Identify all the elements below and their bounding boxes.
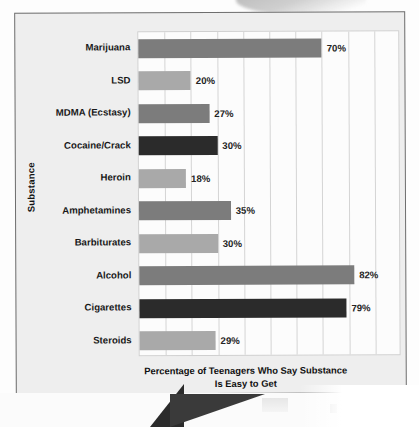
bar-value-label: 29%: [221, 331, 240, 350]
bar: [139, 136, 218, 155]
bar-value-label: 35%: [236, 201, 255, 220]
bar: [139, 234, 218, 253]
bar-value-label: 27%: [214, 104, 233, 123]
bar: [140, 331, 216, 350]
bar-value-label: 79%: [351, 298, 370, 317]
gridline-80: [348, 31, 350, 354]
bar: [139, 104, 210, 123]
category-label: MDMA (Ecstasy): [56, 106, 131, 120]
bar: [139, 298, 346, 318]
bar-value-label: 30%: [222, 136, 241, 155]
plot-region: MarijuanaLSDMDMA (Ecstasy)Cocaine/CrackH…: [39, 30, 400, 357]
plot-area: 70%20%27%30%18%35%30%82%79%29%: [137, 30, 400, 356]
category-label: Cocaine/Crack: [64, 138, 131, 152]
bar: [139, 169, 186, 188]
bar: [138, 71, 190, 90]
category-label: Cigarettes: [85, 301, 132, 315]
gridlines-layer: [138, 31, 398, 32]
bar-value-label: 70%: [327, 38, 346, 57]
category-label: Amphetamines: [62, 203, 131, 217]
category-label: Heroin: [100, 171, 130, 185]
bar: [138, 38, 321, 58]
page-corner-fold-icon: [150, 384, 265, 427]
y-axis-title: Substance: [25, 142, 36, 232]
category-axis-labels: MarijuanaLSDMDMA (Ecstasy)Cocaine/CrackH…: [39, 31, 136, 356]
page-faint-mark: [262, 398, 288, 412]
category-label: Alcohol: [96, 268, 131, 282]
bar-value-label: 82%: [359, 266, 378, 285]
category-label: LSD: [111, 73, 130, 87]
category-label: Marijuana: [85, 41, 130, 55]
bar: [139, 266, 354, 286]
bar-value-label: 18%: [191, 169, 210, 188]
gridline-90: [374, 31, 376, 354]
bar-value-label: 30%: [223, 234, 242, 253]
bar: [139, 201, 231, 220]
chart-card: Substance MarijuanaLSDMDMA (Ecstasy)Coca…: [14, 11, 407, 395]
bars-layer: 70%20%27%30%18%35%30%82%79%29%: [138, 31, 398, 32]
scanned-page-background: Substance MarijuanaLSDMDMA (Ecstasy)Coca…: [0, 0, 419, 427]
category-label: Steroids: [93, 333, 131, 347]
x-axis-title-line1: Percentage of Teenagers Who Say Substanc…: [115, 364, 377, 378]
category-label: Barbiturates: [75, 236, 132, 250]
corner-fold-shape-b: [170, 394, 265, 427]
scan-highlight-right: [300, 385, 419, 427]
bar-value-label: 20%: [196, 71, 215, 90]
